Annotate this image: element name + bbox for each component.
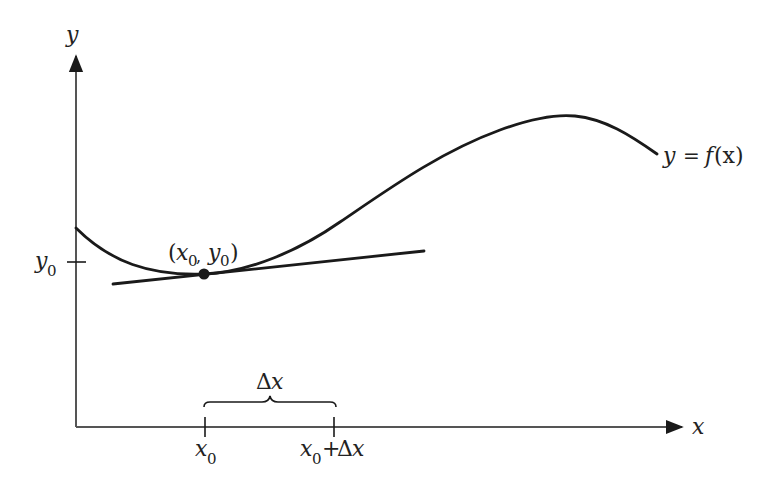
svg-text:(x): (x)	[714, 143, 744, 168]
svg-text:y: y	[34, 248, 48, 273]
delta-x-label: Δ x	[256, 369, 284, 394]
svg-text:x: x	[352, 436, 365, 461]
svg-text:0: 0	[220, 252, 230, 270]
svg-text:0: 0	[207, 450, 217, 468]
svg-text:y: y	[662, 143, 676, 168]
tangent-point	[199, 269, 210, 280]
svg-text:y: y	[207, 240, 221, 265]
curve-label: y = f (x)	[662, 143, 744, 168]
tangent-line	[113, 251, 424, 284]
x-axis-label: x	[692, 414, 705, 439]
x0-label: x 0	[195, 436, 217, 468]
function-curve	[76, 116, 657, 275]
svg-text:0: 0	[312, 450, 322, 468]
point-label: ( x 0 , y 0 )	[168, 240, 239, 270]
delta-x-brace	[204, 396, 336, 407]
svg-text:x: x	[271, 369, 284, 394]
y0-label: y 0	[34, 248, 57, 280]
x0-plus-dx-label: x 0 + Δ x	[300, 436, 365, 468]
svg-text:Δ: Δ	[256, 369, 272, 394]
derivative-diagram: y x y 0 ( x 0 , y 0 ) y = f (x) x 0 x 0 …	[0, 0, 783, 495]
svg-text:): )	[230, 240, 239, 265]
svg-text:Δ: Δ	[337, 436, 353, 461]
svg-text:0: 0	[47, 262, 57, 280]
svg-text:,: ,	[196, 247, 201, 266]
y-axis-label: y	[65, 22, 79, 47]
svg-text:=: =	[683, 144, 700, 168]
